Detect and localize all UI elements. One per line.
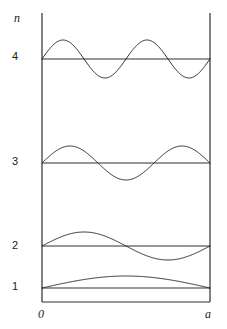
plot-area <box>0 0 227 329</box>
x-end-label: a <box>205 308 211 320</box>
level-label-1: 1 <box>12 281 18 292</box>
level-baselines <box>42 59 210 288</box>
level-label-3: 3 <box>12 156 18 167</box>
wave-curves <box>42 40 210 288</box>
wavefunction-figure: n 0 a 4 3 2 1 <box>0 0 227 329</box>
level-label-2: 2 <box>12 240 18 251</box>
y-axis-label: n <box>14 12 20 24</box>
x-origin-label: 0 <box>38 308 44 320</box>
level-label-4: 4 <box>12 51 18 62</box>
wavefunction-curve-1 <box>42 276 210 288</box>
box-frame <box>42 13 210 302</box>
